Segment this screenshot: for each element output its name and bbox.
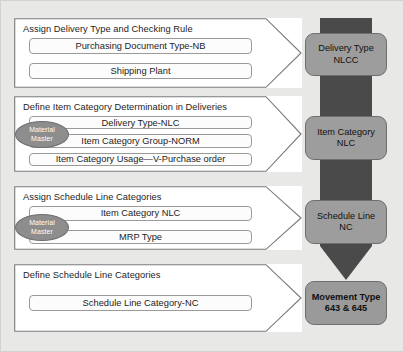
result-box-schedule-line[interactable]: Schedule Line NC	[305, 200, 387, 244]
config-item[interactable]: Schedule Line Category-NC	[29, 295, 252, 311]
section-chevron: Define Item Category Determination in De…	[14, 96, 302, 172]
result-line-2: NC	[339, 222, 352, 234]
config-item-label: Delivery Type-NLC	[102, 118, 180, 128]
section-content: Assign Delivery Type and Checking Rule P…	[14, 18, 266, 88]
config-item-label: Shipping Plant	[111, 66, 171, 76]
material-master-badge: Material Master	[15, 214, 69, 241]
config-item-label: Item Category NLC	[101, 208, 181, 218]
section-chevron: Assign Delivery Type and Checking Rule P…	[14, 18, 302, 88]
result-line-2: NLCC	[333, 55, 358, 67]
config-item[interactable]: Item Category Usage—V-Purchase order	[29, 153, 252, 166]
result-line-1: Delivery Type	[318, 43, 374, 55]
result-line-1: Movement Type	[312, 292, 381, 304]
config-item-label: MRP Type	[119, 232, 162, 242]
diagram-canvas: Assign Delivery Type and Checking Rule P…	[0, 0, 404, 352]
material-master-line1: Material	[29, 219, 55, 227]
config-item-label: Item Category Group-NORM	[81, 136, 199, 146]
config-item-label: Schedule Line Category-NC	[83, 298, 199, 308]
section-chevron: Assign Schedule Line Categories Item Cat…	[14, 186, 302, 250]
config-item[interactable]: Shipping Plant	[29, 63, 252, 79]
result-line-2: NLC	[337, 138, 355, 150]
result-line-1: Item Category	[317, 127, 375, 139]
section-title: Define Item Category Determination in De…	[23, 101, 258, 113]
result-line-1: Schedule Line	[317, 211, 375, 223]
material-master-line2: Master	[31, 228, 53, 236]
config-item[interactable]: Purchasing Document Type-NB	[29, 38, 252, 54]
section-chevron: Define Schedule Line Categories Schedule…	[14, 264, 302, 332]
section-title: Assign Schedule Line Categories	[23, 191, 258, 203]
result-box-delivery-type[interactable]: Delivery Type NLCC	[305, 33, 387, 76]
material-master-badge: Material Master	[15, 121, 69, 148]
result-box-movement-type[interactable]: Movement Type 643 & 645	[305, 281, 387, 325]
section-title: Assign Delivery Type and Checking Rule	[23, 23, 258, 35]
material-master-line1: Material	[29, 126, 55, 134]
result-box-item-category[interactable]: Item Category NLC	[305, 116, 387, 160]
result-line-2: 643 & 645	[325, 303, 367, 315]
material-master-line2: Master	[31, 135, 53, 143]
section-title: Define Schedule Line Categories	[23, 269, 258, 281]
config-item-label: Item Category Usage—V-Purchase order	[56, 154, 226, 164]
section-content: Define Schedule Line Categories Schedule…	[14, 264, 266, 332]
config-item-label: Purchasing Document Type-NB	[75, 41, 205, 51]
